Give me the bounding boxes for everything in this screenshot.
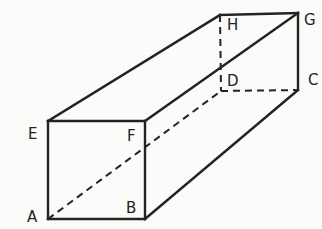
hidden-edges [48,15,298,219]
hidden-edge-dc [221,90,298,91]
vertex-label-g: G [304,11,316,29]
vertex-label-a: A [27,208,38,226]
vertex-label-f: F [127,127,136,145]
edge-hg [220,13,298,15]
edge-fg [145,13,298,121]
vertex-label-b: B [126,199,136,217]
vertex-label-c: C [308,71,318,89]
edge-eh [48,15,220,121]
vertex-label-h: H [227,16,238,34]
hidden-edge-hd [220,15,221,91]
edge-bc [145,90,298,219]
solid-edges [48,13,298,219]
prism-diagram: A B C D E F G H [0,0,322,229]
vertex-label-d: D [227,72,239,90]
vertex-label-e: E [28,125,37,143]
